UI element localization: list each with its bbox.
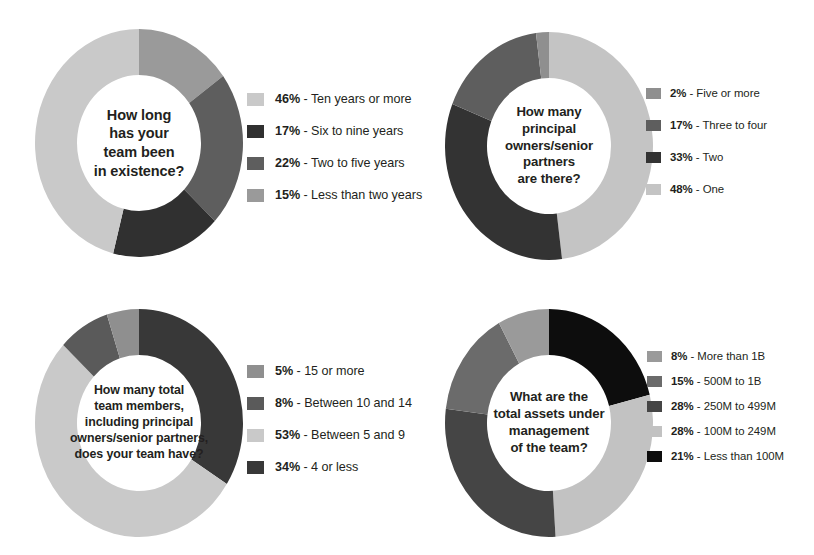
legend-percent: 8% bbox=[275, 396, 293, 410]
legend-item: 8% - More than 1B bbox=[647, 350, 784, 362]
legend-label: 5% - 15 or more bbox=[275, 364, 365, 378]
legend-color-swatch bbox=[247, 461, 264, 474]
legend-color-swatch bbox=[247, 157, 264, 170]
donut-slice bbox=[445, 409, 556, 537]
legend-color-swatch bbox=[646, 88, 661, 99]
legend-label: 48% - One bbox=[670, 183, 724, 195]
legend-item: 46% - Ten years or more bbox=[247, 92, 422, 106]
legend-color-swatch bbox=[647, 376, 662, 387]
legend-item: 2% - Five or more bbox=[646, 87, 767, 99]
legend-label: 33% - Two bbox=[670, 151, 723, 163]
legend-item: 15% - Less than two years bbox=[247, 188, 422, 202]
legend-color-swatch bbox=[646, 120, 661, 131]
legend-team-existence: 46% - Ten years or more17% - Six to nine… bbox=[247, 92, 422, 202]
legend-percent: 15% bbox=[671, 375, 694, 387]
donut-slice bbox=[549, 32, 653, 259]
legend-item: 33% - Two bbox=[646, 151, 767, 163]
donut-slice bbox=[549, 309, 650, 406]
legend-total-team-members: 5% - 15 or more8% - Between 10 and 1453%… bbox=[247, 364, 412, 474]
legend-color-swatch bbox=[647, 401, 662, 412]
charts-grid: How long has your team been in existence… bbox=[0, 0, 814, 555]
legend-label: 53% - Between 5 and 9 bbox=[275, 428, 405, 442]
legend-item: 22% - Two to five years bbox=[247, 156, 422, 170]
donut-svg-1 bbox=[28, 22, 250, 264]
donut-svg-4 bbox=[438, 302, 660, 544]
donut-slice bbox=[452, 33, 541, 121]
donut-slice bbox=[139, 309, 243, 484]
legend-percent: 2% bbox=[670, 87, 686, 99]
donut-chart-assets-under-management: What are the total assets under manageme… bbox=[438, 302, 660, 544]
legend-label: 8% - Between 10 and 14 bbox=[275, 396, 412, 410]
legend-color-swatch bbox=[647, 351, 662, 362]
legend-item: 5% - 15 or more bbox=[247, 364, 412, 378]
legend-color-swatch bbox=[247, 429, 264, 442]
legend-item: 15% - 500M to 1B bbox=[647, 375, 784, 387]
legend-item: 17% - Six to nine years bbox=[247, 124, 422, 138]
legend-label: 34% - 4 or less bbox=[275, 460, 358, 474]
legend-label: 17% - Six to nine years bbox=[275, 124, 403, 138]
legend-color-swatch bbox=[647, 426, 662, 437]
legend-percent: 21% bbox=[671, 450, 694, 462]
donut-svg-2 bbox=[438, 25, 660, 267]
legend-color-swatch bbox=[647, 451, 662, 462]
legend-label: 15% - 500M to 1B bbox=[671, 375, 761, 387]
chart-panel-assets-under-management: What are the total assets under manageme… bbox=[410, 280, 814, 555]
legend-color-swatch bbox=[247, 397, 264, 410]
legend-label: 15% - Less than two years bbox=[275, 188, 422, 202]
legend-percent: 33% bbox=[670, 151, 693, 163]
legend-label: 2% - Five or more bbox=[670, 87, 760, 99]
legend-label: 21% - Less than 100M bbox=[671, 450, 784, 462]
legend-percent: 15% bbox=[275, 188, 300, 202]
donut-slice bbox=[553, 395, 653, 537]
legend-label: 17% - Three to four bbox=[670, 119, 767, 131]
legend-item: 48% - One bbox=[646, 183, 767, 195]
legend-principal-owners: 2% - Five or more17% - Three to four33% … bbox=[646, 87, 767, 195]
legend-percent: 8% bbox=[671, 350, 687, 362]
legend-color-swatch bbox=[646, 152, 661, 163]
donut-chart-total-team-members: How many total team members, including p… bbox=[28, 302, 250, 544]
legend-percent: 28% bbox=[671, 400, 694, 412]
chart-panel-principal-owners: How many principal owners/senior partner… bbox=[410, 0, 814, 280]
legend-percent: 22% bbox=[275, 156, 300, 170]
legend-label: 46% - Ten years or more bbox=[275, 92, 412, 106]
legend-label: 22% - Two to five years bbox=[275, 156, 405, 170]
legend-item: 53% - Between 5 and 9 bbox=[247, 428, 412, 442]
legend-color-swatch bbox=[247, 125, 264, 138]
legend-label: 28% - 100M to 249M bbox=[671, 425, 776, 437]
donut-chart-team-existence: How long has your team been in existence… bbox=[28, 22, 250, 264]
legend-percent: 5% bbox=[275, 364, 293, 378]
legend-color-swatch bbox=[646, 184, 661, 195]
legend-percent: 53% bbox=[275, 428, 300, 442]
legend-item: 34% - 4 or less bbox=[247, 460, 412, 474]
legend-percent: 34% bbox=[275, 460, 300, 474]
legend-item: 28% - 250M to 499M bbox=[647, 400, 784, 412]
legend-assets-under-management: 8% - More than 1B15% - 500M to 1B28% - 2… bbox=[647, 350, 784, 462]
legend-item: 8% - Between 10 and 14 bbox=[247, 396, 412, 410]
donut-svg-3 bbox=[28, 302, 250, 544]
donut-chart-principal-owners: How many principal owners/senior partner… bbox=[438, 25, 660, 267]
legend-percent: 48% bbox=[670, 183, 693, 195]
legend-color-swatch bbox=[247, 93, 264, 106]
legend-label: 28% - 250M to 499M bbox=[671, 400, 776, 412]
donut-slice bbox=[445, 104, 562, 260]
chart-panel-total-team-members: How many total team members, including p… bbox=[0, 280, 410, 555]
legend-percent: 17% bbox=[670, 119, 693, 131]
legend-color-swatch bbox=[247, 189, 264, 202]
legend-item: 28% - 100M to 249M bbox=[647, 425, 784, 437]
legend-item: 17% - Three to four bbox=[646, 119, 767, 131]
legend-percent: 28% bbox=[671, 425, 694, 437]
legend-label: 8% - More than 1B bbox=[671, 350, 765, 362]
chart-panel-team-existence: How long has your team been in existence… bbox=[0, 0, 410, 280]
legend-color-swatch bbox=[247, 365, 264, 378]
legend-percent: 46% bbox=[275, 92, 300, 106]
legend-item: 21% - Less than 100M bbox=[647, 450, 784, 462]
legend-percent: 17% bbox=[275, 124, 300, 138]
